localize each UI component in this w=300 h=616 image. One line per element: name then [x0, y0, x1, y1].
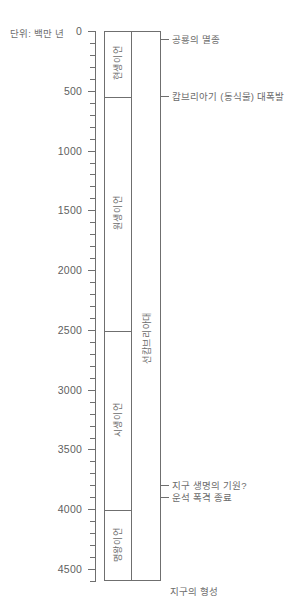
axis-tick-minor: [90, 43, 96, 44]
geologic-timescale-figure: 단위: 백만 년 0500100015002000250030003500400…: [0, 0, 300, 616]
axis-tick-minor: [90, 533, 96, 534]
event-leader-line: [161, 497, 169, 498]
axis-tick-major: [88, 449, 96, 450]
axis-tick-minor: [90, 174, 96, 175]
axis-tick-major: [88, 330, 96, 331]
axis-tick-minor: [90, 115, 96, 116]
band-label-선캄브리아대: 선캄브리아대: [139, 313, 152, 365]
axis-tick-minor: [90, 318, 96, 319]
axis-tick-major: [88, 390, 96, 391]
band-label-시생이언: 시생이언: [111, 402, 124, 436]
axis-tick-minor: [90, 186, 96, 187]
axis-tick-label-text: 500: [30, 85, 82, 97]
axis-tick-major: [88, 509, 96, 510]
event-label: 캄브리아기 (동식물) 대폭발: [172, 89, 284, 103]
axis-tick-minor: [90, 127, 96, 128]
axis-tick-major: [88, 31, 96, 32]
axis-tick-minor: [90, 306, 96, 307]
axis-tick-minor: [90, 234, 96, 235]
event-label: 지구의 형성: [170, 584, 218, 598]
axis-tick-minor: [90, 139, 96, 140]
axis-tick-minor: [90, 557, 96, 558]
axis-tick-minor: [90, 222, 96, 223]
axis-tick-minor: [90, 258, 96, 259]
event-leader-line: [161, 96, 169, 97]
axis-tick-major: [88, 210, 96, 211]
axis-tick-minor: [90, 79, 96, 80]
axis-tick-minor: [90, 378, 96, 379]
axis-tick-label-text: 4000: [30, 503, 82, 515]
axis-tick-minor: [90, 426, 96, 427]
axis-tick-major: [88, 270, 96, 271]
axis-tick-minor: [90, 55, 96, 56]
event-leader-line: [161, 39, 169, 40]
axis-tick-minor: [90, 67, 96, 68]
band-label-현생이언: 현생이언: [111, 46, 124, 80]
axis-tick-major: [88, 151, 96, 152]
axis-tick-minor: [90, 545, 96, 546]
event-label: 공룡의 멸종: [172, 32, 220, 46]
axis-tick-label-text: 3500: [30, 443, 82, 455]
axis-tick-minor: [90, 485, 96, 486]
axis-tick-minor: [90, 246, 96, 247]
eon-boundary-line: [105, 510, 131, 511]
event-label: 운석 폭격 종료: [172, 490, 232, 504]
axis-tick-minor: [90, 342, 96, 343]
axis-tick-major: [88, 569, 96, 570]
axis-tick-minor: [90, 294, 96, 295]
axis-tick-minor: [90, 354, 96, 355]
axis-tick-label-text: 1000: [30, 145, 82, 157]
axis-tick-minor: [90, 282, 96, 283]
axis-tick-minor: [90, 103, 96, 104]
axis-tick-label-text: 3000: [30, 384, 82, 396]
axis-tick-minor: [90, 402, 96, 403]
band-label-원생이언: 원생이언: [111, 196, 124, 230]
event-leader-line: [161, 485, 169, 486]
axis-tick-minor: [90, 414, 96, 415]
axis-tick-minor: [90, 198, 96, 199]
eon-boundary-line: [105, 97, 131, 98]
axis-tick-minor: [90, 461, 96, 462]
axis-tick-label-text: 2500: [30, 324, 82, 336]
axis-tick-minor: [90, 438, 96, 439]
axis-tick-minor: [90, 521, 96, 522]
axis-tick-minor: [90, 497, 96, 498]
axis-tick-label-text: 4500: [30, 563, 82, 575]
timescale-box: [104, 31, 161, 581]
axis-tick-minor: [90, 581, 96, 582]
column-divider: [131, 32, 132, 580]
axis-tick-minor: [90, 163, 96, 164]
axis-tick-label-text: 0: [30, 25, 82, 37]
axis-tick-minor: [90, 473, 96, 474]
axis-tick-major: [88, 91, 96, 92]
axis-tick-label-text: 2000: [30, 264, 82, 276]
eon-boundary-line: [105, 331, 131, 332]
axis-tick-label-text: 1500: [30, 204, 82, 216]
axis-tick-minor: [90, 366, 96, 367]
band-label-명왕이언: 명왕이언: [111, 528, 124, 562]
